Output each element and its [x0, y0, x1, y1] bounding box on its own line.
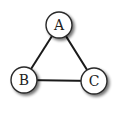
graph-diagram: A B C: [0, 0, 119, 123]
node-a-label: A: [53, 17, 65, 33]
node-b: B: [11, 67, 37, 93]
node-c-label: C: [89, 73, 100, 89]
node-c: C: [81, 68, 107, 94]
node-a: A: [46, 12, 72, 38]
node-b-label: B: [19, 72, 29, 88]
